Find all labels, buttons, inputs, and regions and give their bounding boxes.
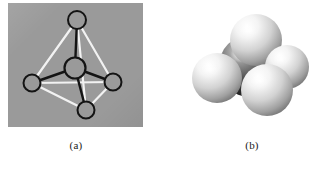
left-sphere-body <box>192 53 242 103</box>
right-vertex-atom <box>105 74 122 91</box>
top-sphere-highlight <box>239 24 257 38</box>
space-filling-model <box>186 6 314 128</box>
edge-left-right <box>32 82 113 83</box>
caption-panel-a: (a) <box>46 139 106 151</box>
left-vertex-atom <box>24 75 41 92</box>
right-sphere-highlight <box>273 53 288 64</box>
bottom-vertex-atom <box>78 102 95 119</box>
spheres-group <box>192 14 309 116</box>
left-sphere-highlight <box>201 63 218 76</box>
ball-and-stick-model <box>8 3 143 127</box>
figure-container: (a) (b) <box>0 0 330 170</box>
center-atom <box>65 58 86 79</box>
top-vertex-atom <box>68 11 86 29</box>
front-bottom-sphere-highlight <box>250 74 268 88</box>
caption-panel-b: (b) <box>222 139 282 151</box>
front-bottom-sphere <box>241 64 293 116</box>
left-sphere <box>192 53 242 103</box>
front-bottom-sphere-body <box>241 64 293 116</box>
